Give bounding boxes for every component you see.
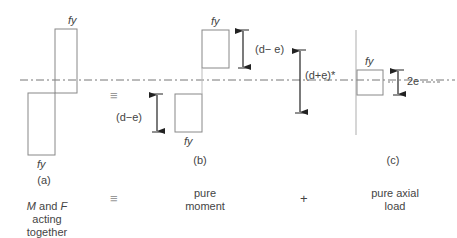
panel-b-upper-block xyxy=(202,30,229,68)
panel-a-caption: M and F acting together xyxy=(12,200,82,238)
panel-a-upper-block xyxy=(55,29,77,93)
panel-c-label: (c) xyxy=(383,154,403,167)
plus-symbol: + xyxy=(300,192,308,205)
panel-b-lower-block xyxy=(175,94,202,132)
panel-b-label: (b) xyxy=(190,154,210,167)
panel-a-label: (a) xyxy=(34,174,54,187)
panel-a-lower-block xyxy=(28,93,55,155)
dim-label-combined: (d+e)* xyxy=(305,69,335,82)
dim-label-b-right: (d− e) xyxy=(255,43,284,56)
fy-label-a-top: fy xyxy=(68,14,77,26)
equivalence-symbol-bottom: ≡ xyxy=(110,192,118,205)
fy-label-a-bottom: fy xyxy=(37,158,46,170)
panel-c-caption: pure axial load xyxy=(360,187,430,213)
panel-b-caption: pure moment xyxy=(170,187,240,213)
panel-c-block xyxy=(357,70,383,95)
fy-label-b-top: fy xyxy=(211,15,220,27)
equivalence-symbol-top: ≡ xyxy=(110,89,118,102)
fy-label-b-bottom: fy xyxy=(184,135,193,147)
fy-label-c: fy xyxy=(365,55,374,67)
dim-label-b-left: (d−e) xyxy=(116,111,142,124)
dim-label-2e: 2e xyxy=(407,75,419,88)
